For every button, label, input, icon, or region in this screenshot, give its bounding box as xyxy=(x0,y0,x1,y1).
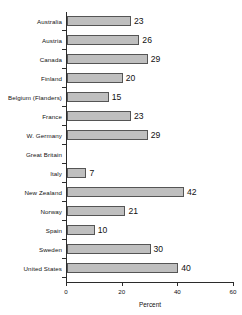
bar-value-label: 23 xyxy=(134,110,144,122)
x-axis-tick-label: 0 xyxy=(56,288,76,296)
bar-row: Canada29 xyxy=(0,50,242,69)
bar-value-label: 30 xyxy=(154,243,164,255)
x-axis-tick-label: 40 xyxy=(167,288,187,296)
x-axis-tick-label: 60 xyxy=(223,288,242,296)
bar-row: France23 xyxy=(0,107,242,126)
bar xyxy=(67,168,86,178)
bar xyxy=(67,263,178,273)
category-label: W. Germany xyxy=(0,126,62,145)
bar-value-label: 7 xyxy=(89,167,94,179)
bar-value-label: 26 xyxy=(142,34,152,46)
bar xyxy=(67,92,109,102)
category-label: Belgium (Flanders) xyxy=(0,88,62,107)
bar-value-label: 29 xyxy=(151,53,161,65)
category-label: New Zealand xyxy=(0,183,62,202)
bar xyxy=(67,73,123,83)
bar-row: Norway21 xyxy=(0,202,242,221)
category-label: Norway xyxy=(0,202,62,221)
bar-row: New Zealand42 xyxy=(0,183,242,202)
category-label: France xyxy=(0,107,62,126)
bar-value-label: 40 xyxy=(181,262,191,274)
bar-row: Spain10 xyxy=(0,221,242,240)
bar-row: Italy7 xyxy=(0,164,242,183)
category-label: Great Britain xyxy=(0,145,62,164)
category-label: Italy xyxy=(0,164,62,183)
bar-row: Finland20 xyxy=(0,69,242,88)
bar-value-label: 29 xyxy=(151,129,161,141)
bar-row: Sweden30 xyxy=(0,240,242,259)
bar xyxy=(67,244,151,254)
x-axis-line xyxy=(66,282,234,283)
x-axis-tick xyxy=(177,282,178,286)
bar-row: Belgium (Flanders)15 xyxy=(0,88,242,107)
bar-value-label: 21 xyxy=(128,205,138,217)
bar xyxy=(67,130,148,140)
bar xyxy=(67,206,125,216)
bar-value-label: 23 xyxy=(134,15,144,27)
category-label: Sweden xyxy=(0,240,62,259)
x-axis-tick xyxy=(122,282,123,286)
bar xyxy=(67,16,131,26)
x-axis-tick xyxy=(233,282,234,286)
category-label: Austria xyxy=(0,31,62,50)
bar-value-label: 10 xyxy=(98,224,108,236)
bar-value-label: 20 xyxy=(126,72,136,84)
x-axis-tick xyxy=(66,282,67,286)
bar xyxy=(67,35,139,45)
category-label: Canada xyxy=(0,50,62,69)
category-label: United States xyxy=(0,259,62,278)
bar-row: Australia23 xyxy=(0,12,242,31)
x-axis-tick-label: 20 xyxy=(112,288,132,296)
bar-chart: Australia23Austria26Canada29Finland20Bel… xyxy=(0,0,242,315)
category-label: Australia xyxy=(0,12,62,31)
bar-value-label: 15 xyxy=(112,91,122,103)
bar-row: Austria26 xyxy=(0,31,242,50)
bar xyxy=(67,111,131,121)
bar-row: Great Britain xyxy=(0,145,242,164)
y-axis-tick xyxy=(62,277,66,278)
x-axis-title: Percent xyxy=(66,300,234,309)
category-label: Finland xyxy=(0,69,62,88)
bar xyxy=(67,54,148,64)
category-label: Spain xyxy=(0,221,62,240)
bar xyxy=(67,187,184,197)
bar-value-label: 42 xyxy=(187,186,197,198)
bar-row: W. Germany29 xyxy=(0,126,242,145)
bar xyxy=(67,225,95,235)
bar-row: United States40 xyxy=(0,259,242,278)
